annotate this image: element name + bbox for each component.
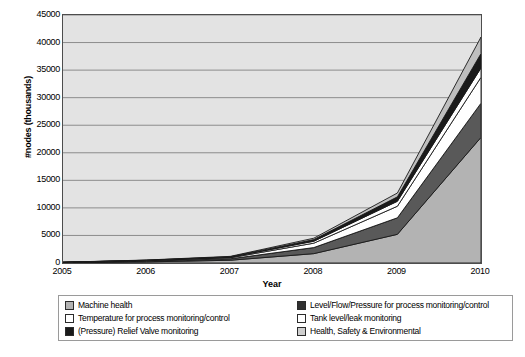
legend-item[interactable]: Level/Flow/Pressure for process monitori…: [297, 299, 512, 312]
legend-item[interactable]: Tank level/leak monitoring: [297, 312, 512, 325]
legend-swatch-icon: [65, 314, 74, 323]
legend-item[interactable]: Machine health: [59, 299, 297, 312]
x-axis-title: Year: [62, 279, 482, 289]
y-axis-tick-labels: 0500010000150002000025000300003500040000…: [10, 0, 60, 280]
stacked-area-chart: #nodes (thousands) 050001000015000200002…: [0, 0, 525, 357]
area-series-svg: [63, 15, 481, 263]
y-tick-label: 20000: [14, 148, 60, 157]
legend-swatch-icon: [65, 327, 74, 336]
legend-swatch-icon: [297, 301, 306, 310]
x-tick-label: 2005: [32, 266, 92, 276]
legend-label: Level/Flow/Pressure for process monitori…: [310, 301, 489, 310]
x-tick-label: 2010: [450, 266, 510, 276]
y-tick-label: 5000: [14, 230, 60, 239]
y-tick-label: 15000: [14, 175, 60, 184]
plot-inner: [63, 15, 481, 263]
legend-label: (Pressure) Relief Valve monitoring: [78, 327, 198, 336]
legend-label: Temperature for process monitoring/contr…: [78, 314, 230, 323]
legend-item[interactable]: Health, Safety & Environmental: [297, 325, 512, 338]
x-axis-tick-labels: 200520062007200820092010: [0, 266, 525, 280]
y-tick-label: 35000: [14, 65, 60, 74]
y-tick-label: 45000: [14, 10, 60, 19]
legend-swatch-icon: [297, 327, 306, 336]
legend-row: (Pressure) Relief Valve monitoringHealth…: [59, 325, 512, 338]
legend-label: Machine health: [78, 301, 132, 310]
x-tick-label: 2006: [116, 266, 176, 276]
legend-row: Machine healthLevel/Flow/Pressure for pr…: [59, 299, 512, 312]
legend-item[interactable]: Temperature for process monitoring/contr…: [59, 312, 297, 325]
x-tick-label: 2007: [199, 266, 259, 276]
y-tick-label: 25000: [14, 120, 60, 129]
y-tick-label: 30000: [14, 93, 60, 102]
legend-label: Tank level/leak monitoring: [310, 314, 401, 323]
x-tick-label: 2008: [283, 266, 343, 276]
legend-swatch-icon: [65, 301, 74, 310]
legend-label: Health, Safety & Environmental: [310, 327, 421, 336]
legend-row: Temperature for process monitoring/contr…: [59, 312, 512, 325]
y-tick-label: 10000: [14, 203, 60, 212]
legend-swatch-icon: [297, 314, 306, 323]
legend-item[interactable]: (Pressure) Relief Valve monitoring: [59, 325, 297, 338]
x-tick-label: 2009: [366, 266, 426, 276]
chart-legend: Machine healthLevel/Flow/Pressure for pr…: [58, 295, 513, 341]
plot-area: [62, 14, 482, 264]
y-tick-label: 40000: [14, 38, 60, 47]
